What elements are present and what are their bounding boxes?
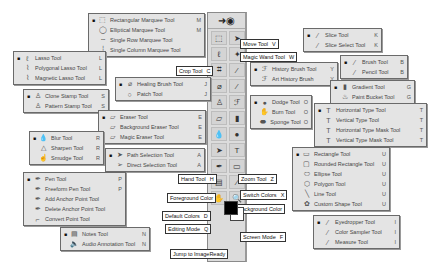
menu-item[interactable]: ⌇Polygonal Lasso ToolL — [17, 63, 102, 73]
menu-item[interactable]: ⬡Polygon ToolU — [296, 179, 386, 189]
tool-button[interactable]: ℱ — [229, 95, 245, 109]
menu-item[interactable]: ◯Elliptical Marquee ToolM — [92, 25, 201, 35]
tool-button[interactable]: ⬚ — [211, 31, 227, 45]
menu-item[interactable]: ■▭Rectangle ToolU — [296, 149, 386, 159]
sharpen-icon: △ — [38, 144, 49, 153]
menu-item-label: Freeform Pen Tool — [45, 186, 114, 192]
label-foreground-color: Foreground Color — [167, 193, 216, 203]
label-zoom-tool: Zoom ToolZ — [238, 174, 277, 184]
menu-item[interactable]: ➢Direct Selection ToolA — [109, 160, 201, 170]
menu-item[interactable]: ⌇Magnetic Lasso ToolL — [17, 73, 102, 83]
tool-button[interactable]: ▭ — [229, 159, 245, 173]
menu-item[interactable]: ■✒Pen ToolP — [27, 174, 122, 184]
menu-item[interactable]: TVertical Type ToolT — [318, 115, 423, 125]
menu-item[interactable]: ℱArt History BrushY — [254, 74, 334, 84]
menu-item[interactable]: ✋Burn ToolO — [254, 107, 308, 117]
menu-item-label: Notes Tool — [82, 231, 138, 237]
tool-button[interactable]: ▱ — [211, 111, 227, 125]
menu-item[interactable]: ⌐Convert Point Tool — [27, 214, 122, 224]
menu-item[interactable]: ○Patch ToolJ — [119, 89, 207, 99]
shortcut-key: U — [378, 171, 386, 177]
menu-item[interactable]: ▢Rounded Rectangle ToolU — [296, 159, 386, 169]
menu-item-label: Direct Selection Tool — [127, 162, 193, 168]
menu-item[interactable]: ■THorizontal Type ToolT — [318, 105, 423, 115]
pattern-stamp-icon: ♙ — [32, 102, 43, 111]
menu-item[interactable]: ⬭Ellipse ToolU — [296, 169, 386, 179]
menu-item[interactable]: ■ℓLasso ToolL — [17, 53, 102, 63]
add-anchor-icon: ✒ — [32, 195, 43, 204]
tool-button[interactable]: ⁄ — [229, 63, 245, 77]
menu-item[interactable]: ■▤Notes ToolN — [64, 229, 146, 239]
menu-item[interactable]: ♙Pattern Stamp ToolS — [27, 101, 105, 111]
menu-item[interactable]: ■⬚Rectangular Marquee ToolM — [92, 15, 201, 25]
art-history-brush-icon: ℱ — [259, 75, 270, 84]
tool-button[interactable]: ℓ — [211, 47, 227, 61]
menu-item[interactable]: ✿Custom Shape ToolU — [296, 199, 386, 209]
foreground-swatch[interactable] — [224, 201, 238, 215]
popup-gradient: ■▮Gradient ToolG♨Paint Bucket ToolG — [330, 80, 415, 104]
menu-item[interactable]: ⁄Slice Select ToolK — [307, 40, 378, 50]
menu-item[interactable]: ■⁄Brush ToolB — [344, 57, 404, 67]
popup-brush: ■⁄Brush ToolB⁄Pencil ToolB — [340, 55, 408, 79]
shortcut-key: O — [301, 119, 308, 125]
menu-item[interactable]: △Sharpen ToolR — [33, 143, 100, 153]
tool-button[interactable]: T — [229, 143, 245, 157]
menu-item[interactable]: ╲Line ToolU — [296, 189, 386, 199]
adobe-logo-icon[interactable]: ➜◉ — [208, 13, 245, 29]
popup-dodge: ■●Dodge ToolO✋Burn ToolO⬬Sponge ToolO — [250, 95, 312, 129]
menu-item[interactable]: ■♙Clone Stamp ToolS — [27, 91, 105, 101]
menu-item[interactable]: ■▱Eraser ToolE — [102, 112, 202, 122]
tool-button[interactable]: ⌀ — [211, 79, 227, 93]
dodge-icon: ● — [259, 98, 270, 107]
label-editing-mode: Editing ModeQ — [165, 224, 211, 234]
menu-item[interactable]: ☝Smudge ToolR — [33, 153, 100, 163]
tool-button[interactable]: 💧 — [211, 127, 227, 141]
shortcut-key: M — [193, 27, 201, 33]
menu-item-label: Art History Brush — [272, 76, 326, 82]
popup-history: ■ℱHistory Brush ToolYℱArt History BrushY — [250, 62, 338, 86]
menu-item[interactable]: ■▮Gradient ToolG — [334, 82, 411, 92]
popup-shape: ■▭Rectangle ToolU▢Rounded Rectangle Tool… — [292, 147, 390, 211]
menu-item[interactable]: ┄Single Row Marquee Tool — [92, 35, 201, 45]
menu-item[interactable]: ▱Magic Eraser ToolE — [102, 132, 202, 142]
pen-icon: ✒ — [32, 175, 43, 184]
menu-item[interactable]: ┆Single Column Marquee Tool — [92, 45, 201, 55]
tool-button[interactable]: ⁄ — [229, 79, 245, 93]
menu-item[interactable]: ⁄Pencil ToolB — [344, 67, 404, 77]
shortcut-key: O — [300, 109, 308, 115]
label-crop-tool: Crop ToolC — [176, 66, 213, 76]
tool-button[interactable]: ▮ — [229, 111, 245, 125]
menu-item[interactable]: ⬬Sponge ToolO — [254, 117, 308, 127]
tool-button[interactable]: ● — [229, 127, 245, 141]
popup-healing: ■⌀Healing Brush ToolJ○Patch ToolJ — [115, 77, 211, 101]
menu-item-label: Slice Select Tool — [325, 42, 370, 48]
menu-item-label: Single Row Marquee Tool — [110, 37, 193, 43]
tool-button[interactable]: ➤ — [211, 143, 227, 157]
menu-item[interactable]: ✒Freeform Pen ToolP — [27, 184, 122, 194]
menu-item[interactable]: ▱Background Eraser ToolE — [102, 122, 202, 132]
menu-item[interactable]: ✒Delete Anchor Point Tool — [27, 204, 122, 214]
menu-item[interactable]: THorizontal Type Mask ToolT — [318, 125, 423, 135]
shortcut-key: E — [194, 134, 202, 140]
menu-item[interactable]: ■●Dodge ToolO — [254, 97, 308, 107]
tool-button[interactable]: ♙ — [211, 95, 227, 109]
menu-item[interactable]: ■ℱHistory Brush ToolY — [254, 64, 334, 74]
shortcut-key: B — [396, 69, 404, 75]
menu-item[interactable]: ⁄Measure ToolI — [317, 237, 396, 247]
menu-item[interactable]: ■⌀Healing Brush ToolJ — [119, 79, 207, 89]
menu-item[interactable]: ♨Paint Bucket ToolG — [334, 92, 411, 102]
menu-item[interactable]: 🔈Audio Annotation ToolN — [64, 239, 146, 249]
menu-item-label: Paint Bucket Tool — [352, 94, 403, 100]
shortcut-key: K — [370, 42, 378, 48]
menu-item[interactable]: ■⁄Eyedropper ToolI — [317, 217, 396, 227]
shortcut-key: I — [388, 219, 396, 225]
menu-item[interactable]: TVertical Type Mask ToolT — [318, 135, 423, 145]
menu-item[interactable]: ■➤Path Selection ToolA — [109, 150, 201, 160]
menu-item[interactable]: ⁄Color Sampler ToolI — [317, 227, 396, 237]
path-selection-icon: ➤ — [114, 151, 125, 160]
delete-anchor-icon: ✒ — [32, 205, 43, 214]
menu-item[interactable]: ■💧Blur ToolR — [33, 133, 100, 143]
menu-item[interactable]: ■⁄Slice ToolK — [307, 30, 378, 40]
menu-item[interactable]: ✒Add Anchor Point Tool — [27, 194, 122, 204]
tool-button[interactable]: ✒ — [211, 159, 227, 173]
